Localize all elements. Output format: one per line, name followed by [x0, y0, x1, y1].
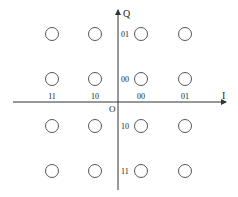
q-bit-label: 01	[121, 30, 129, 39]
constellation-point	[179, 73, 192, 86]
constellation-point	[46, 120, 59, 133]
q-bit-label: 00	[121, 75, 129, 84]
constellation-point	[179, 120, 192, 133]
constellation-point	[46, 28, 59, 41]
constellation-point	[46, 73, 59, 86]
q-bit-labels: 01 00 10 11	[121, 30, 129, 176]
origin-label: O	[109, 104, 116, 114]
constellation-point	[89, 28, 102, 41]
constellation-point	[135, 73, 148, 86]
constellation-point	[89, 73, 102, 86]
q-bit-label: 10	[121, 122, 129, 131]
i-bit-label: 11	[48, 92, 56, 101]
i-bit-labels: 11 10 00 01	[48, 92, 189, 101]
i-bit-label: 10	[91, 92, 99, 101]
i-axis-label: I	[222, 90, 225, 101]
constellation-point	[89, 120, 102, 133]
constellation-point	[135, 165, 148, 178]
constellation-point	[135, 120, 148, 133]
constellation-point	[89, 165, 102, 178]
i-bit-label: 01	[181, 92, 189, 101]
q-axis-label: Q	[123, 8, 131, 19]
constellation-point	[46, 165, 59, 178]
constellation-point	[179, 165, 192, 178]
i-bit-label: 00	[137, 92, 145, 101]
constellation-point	[179, 28, 192, 41]
constellation-point	[135, 28, 148, 41]
qam-constellation-diagram: Q I O 11 10 00 01 01 00 10 11	[0, 0, 238, 197]
q-bit-label: 11	[121, 167, 129, 176]
